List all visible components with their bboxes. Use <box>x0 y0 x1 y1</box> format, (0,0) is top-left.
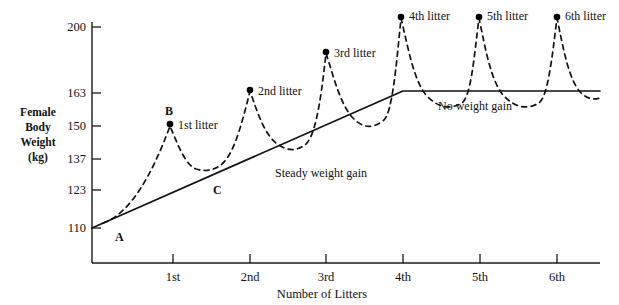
point-b-label: B <box>165 104 173 118</box>
steady-weight-gain-label: Steady weight gain <box>275 166 367 180</box>
y-axis-title-line-1: Female <box>20 106 56 118</box>
peak-dot-5th-litter <box>476 14 483 21</box>
x-axis-tick-labels: 1st 2nd 3rd 4th 5th 6th <box>166 270 566 284</box>
peak-dot-2nd-litter <box>247 87 254 94</box>
x-axis-ticks <box>173 254 557 263</box>
peak-dot-6th-litter <box>554 14 561 21</box>
litter-6-label: 6th litter <box>565 9 606 23</box>
y-axis-tick-labels: 200 163 150 137 123 110 <box>67 20 86 235</box>
y-axis-ticks <box>92 27 101 228</box>
y-tick-label-150: 150 <box>67 119 86 133</box>
y-axis-title-line-3: Weight <box>20 136 55 149</box>
peak-dot-3rd-litter <box>323 49 330 56</box>
y-axis-title: Female Body Weight (kg) <box>20 106 56 164</box>
litter-2-label: 2nd litter <box>258 84 302 98</box>
y-tick-label-200: 200 <box>67 20 86 34</box>
peak-dot-4th-litter <box>398 14 405 21</box>
y-tick-label-123: 123 <box>67 183 86 197</box>
no-weight-gain-label: No weight gain <box>438 99 512 113</box>
litter-peak-labels: 1st litter 2nd litter 3rd litter 4th lit… <box>178 9 606 132</box>
x-tick-label-4th: 4th <box>395 270 412 284</box>
x-tick-label-1st: 1st <box>166 270 181 284</box>
litter-4-label: 4th litter <box>409 9 450 23</box>
point-c-label: C <box>213 183 222 197</box>
litter-1-label: 1st litter <box>178 118 218 132</box>
point-a-label: A <box>115 230 124 244</box>
x-tick-label-5th: 5th <box>472 270 489 284</box>
y-tick-label-137: 137 <box>67 152 86 166</box>
chart-svg: 200 163 150 137 123 110 Female Body Weig… <box>0 0 619 305</box>
x-tick-label-2nd: 2nd <box>241 270 261 284</box>
litter-3-label: 3rd litter <box>334 46 376 60</box>
litter-5-label: 5th litter <box>487 9 528 23</box>
weight-litters-chart: 200 163 150 137 123 110 Female Body Weig… <box>0 0 619 305</box>
x-tick-label-6th: 6th <box>549 270 566 284</box>
y-axis-title-line-2: Body <box>25 121 51 134</box>
y-tick-label-163: 163 <box>67 86 86 100</box>
x-axis-title: Number of Litters <box>277 287 367 301</box>
x-tick-label-3rd: 3rd <box>318 270 335 284</box>
y-tick-label-110: 110 <box>68 221 86 235</box>
peak-dot-1st-litter <box>167 121 174 128</box>
y-axis-title-line-4: (kg) <box>28 151 48 164</box>
